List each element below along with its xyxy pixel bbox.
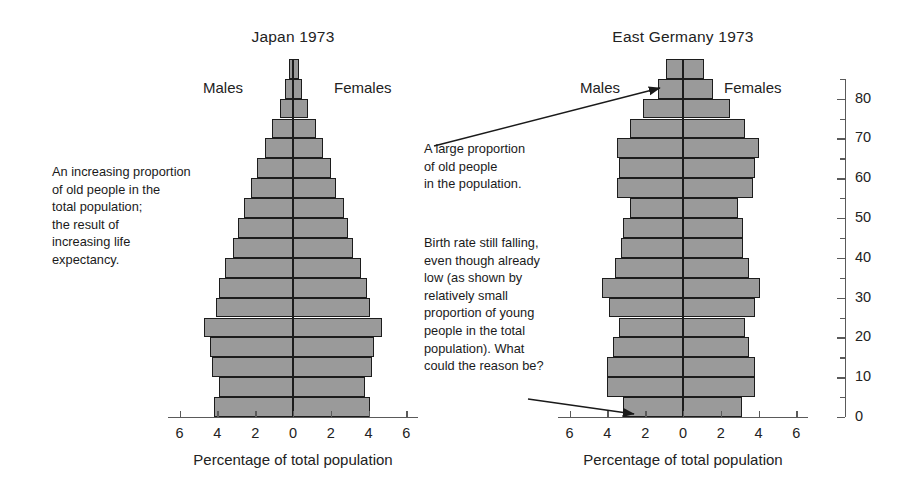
annotation-arrows: [0, 0, 911, 504]
arrow-to-eg-bottom-bar: [528, 399, 634, 414]
population-pyramid-figure: Japan 1973 East Germany 1973 Males Femal…: [0, 0, 911, 504]
arrow-to-eg-top-bar: [434, 88, 660, 146]
